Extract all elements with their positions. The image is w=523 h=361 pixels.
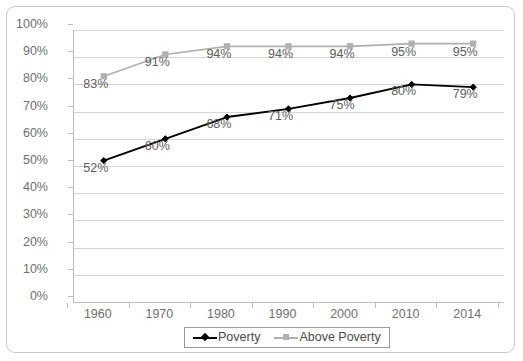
data-label: 95% (377, 46, 431, 59)
data-label: 52% (69, 162, 123, 175)
data-label: 80% (377, 85, 431, 98)
legend-item-above-poverty[interactable]: Above Poverty (274, 331, 380, 344)
legend-item-label: Poverty (218, 331, 260, 344)
diamond-marker-icon (193, 332, 217, 343)
data-label: 94% (254, 48, 308, 61)
chart-legend[interactable]: PovertyAbove Poverty (184, 327, 390, 348)
data-label: 94% (192, 48, 246, 61)
data-label: 95% (438, 46, 492, 59)
data-label: 91% (130, 56, 184, 69)
square-marker-icon (274, 332, 298, 343)
data-label: 79% (438, 88, 492, 101)
data-label: 71% (254, 110, 308, 123)
legend-item-poverty[interactable]: Poverty (193, 331, 260, 344)
data-label: 75% (315, 99, 369, 112)
data-label: 83% (69, 78, 123, 91)
data-label: 68% (192, 118, 246, 131)
data-label: 60% (130, 140, 184, 153)
chart-frame: 0%10%20%30%40%50%60%70%80%90%100% 196019… (6, 6, 515, 353)
legend-item-label: Above Poverty (299, 331, 380, 344)
data-label: 94% (315, 48, 369, 61)
